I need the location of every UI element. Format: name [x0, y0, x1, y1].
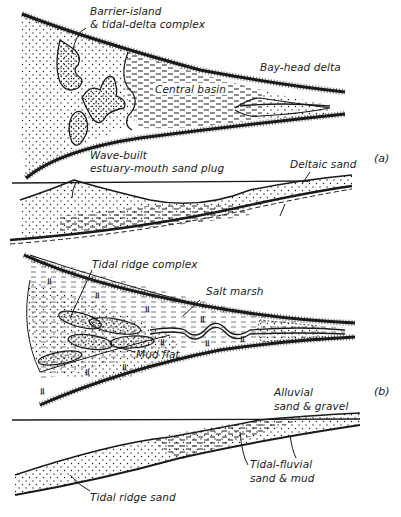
panel-label-a: (a)	[374, 152, 389, 165]
label-tidal-ridge-sand: Tidal ridge sand	[90, 491, 176, 503]
svg-text:⫫: ⫫	[121, 362, 127, 372]
svg-text:⫫: ⫫	[84, 367, 90, 377]
label-alluvial: Alluvial	[274, 386, 313, 398]
label-central-basin: Central basin	[153, 83, 228, 95]
panel-label-b: (b)	[374, 385, 390, 398]
estuary-diagram: ⫫⫫⫫ ⫫⫫⫫ ⫫⫫⫫⫫	[0, 0, 401, 517]
label-bay-head-delta: Bay-head delta	[260, 61, 341, 73]
svg-text:⫫: ⫫	[94, 290, 100, 300]
label-wave-built: Wave-built	[90, 149, 147, 161]
label-salt-marsh: Salt marsh	[206, 285, 264, 297]
svg-text:⫫: ⫫	[239, 334, 245, 344]
svg-text:⫫: ⫫	[144, 304, 150, 314]
label-sand-mud: sand & mud	[250, 472, 315, 484]
panel-a-cross-section	[10, 172, 352, 244]
label-barrier-island: Barrier-island	[90, 5, 162, 17]
svg-text:⫫: ⫫	[39, 386, 45, 396]
label-mud-flat: Mud flat	[136, 348, 180, 360]
svg-text:⫫: ⫫	[199, 314, 205, 324]
label-tidal-ridge-complex: Tidal ridge complex	[92, 258, 198, 270]
label-deltaic-sand: Deltaic sand	[290, 158, 356, 170]
panel-a-plan-view	[21, 14, 345, 178]
panel-b-plan-view: ⫫⫫⫫ ⫫⫫⫫ ⫫⫫⫫⫫	[24, 255, 355, 405]
svg-text:⫫: ⫫	[159, 337, 165, 347]
label-tidal-delta-complex: & tidal-delta complex	[90, 18, 205, 30]
label-tidal-fluvial: Tidal-fluvial	[250, 458, 312, 470]
label-sand-gravel: sand & gravel	[274, 400, 348, 412]
svg-text:⫫: ⫫	[46, 276, 52, 286]
label-estuary-mouth-sand-plug: estuary-mouth sand plug	[90, 162, 224, 174]
svg-text:⫫: ⫫	[204, 338, 210, 348]
